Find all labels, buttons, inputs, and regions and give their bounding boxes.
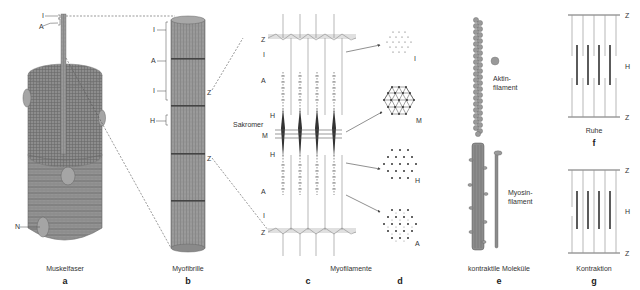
label-actin-filament: filament (493, 84, 518, 91)
label-Z-top: Z (261, 36, 266, 43)
label-A: A (39, 23, 44, 30)
label-Z-top: Z (207, 89, 212, 96)
zoom-connector (212, 38, 243, 90)
label-I-bottom: I (263, 212, 265, 219)
myosin-molecule (495, 154, 498, 248)
label-I: I (42, 12, 44, 19)
label-A: A (415, 240, 420, 247)
panel-letter-c: c (305, 276, 310, 286)
actin-monomer-icon (491, 57, 499, 65)
myofibril-rod (61, 14, 66, 154)
label-I: I (414, 55, 416, 62)
myosin-head-icon (494, 151, 502, 155)
panel-a-muscle-fiber: I A N Muskelfaser a (15, 12, 106, 286)
label-Z-top: Z (625, 12, 630, 19)
nucleus-icon (23, 89, 31, 107)
caption-kontraktile-molekuele: kontraktile Moleküle (468, 265, 530, 272)
panel-letter-e: e (496, 276, 501, 286)
panel-d-cross-sections: I M H (383, 31, 422, 286)
panel-letter-b: b (185, 276, 191, 286)
panel-letter-g: g (591, 276, 597, 286)
label-H-top: H (270, 112, 275, 119)
label-myosin-filament: filament (508, 198, 533, 205)
actin-filament (473, 17, 482, 136)
label-A-bottom: A (261, 188, 266, 195)
panel-g-contracted: Z H Z Kontraktion g (568, 167, 630, 286)
cross-section-A (383, 209, 417, 242)
label-I-bottom: I (153, 87, 155, 94)
label-H: H (625, 208, 630, 215)
caption-ruhe: Ruhe (586, 127, 603, 134)
caption-myofibrille: Myofibrille (172, 265, 204, 273)
myosin-thick-filaments (281, 72, 336, 195)
nucleus-icon (61, 167, 75, 185)
zoom-connector (212, 158, 268, 230)
myofibril-cylinder (171, 20, 205, 248)
label-actin: Aktin- (493, 75, 512, 82)
label-N: N (15, 223, 20, 230)
panel-e-contractile-molecules: Aktin- filament Myosin- filament kontrak… (468, 17, 533, 286)
panel-letter-a: a (62, 276, 68, 286)
panel-letter-d: d (397, 276, 403, 286)
label-I-top: I (153, 26, 155, 33)
cross-section-H (383, 149, 417, 179)
label-Z-bottom: Z (625, 250, 630, 257)
muscle-structure-diagram: I A N Muskelfaser a I A I H Z Z Myofibri… (0, 0, 640, 290)
label-H: H (150, 117, 155, 124)
label-Z-bottom: Z (625, 114, 630, 121)
label-H-bottom: H (270, 151, 275, 158)
label-M: M (416, 117, 422, 124)
caption-myofilamente: Myofilamente (330, 265, 372, 273)
label-Z-bottom: Z (207, 155, 212, 162)
label-sarcomere: Sakromer (233, 121, 264, 128)
label-H: H (625, 63, 630, 70)
cross-section-arrows (346, 45, 382, 212)
panel-f-relaxed: Z H Z Ruhe f (568, 12, 630, 148)
myosin-filament-bundle (468, 143, 488, 250)
m-line (275, 130, 342, 138)
panel-letter-f: f (593, 138, 597, 148)
label-I-top: I (263, 51, 265, 58)
caption-muskelfaser: Muskelfaser (46, 265, 84, 272)
label-Z-bottom: Z (261, 229, 266, 236)
label-myosin: Myosin- (508, 189, 533, 197)
panel-c-sarcomere: Z I A H Sakromer M H A I Z c (233, 14, 356, 286)
label-Z-top: Z (625, 167, 630, 174)
label-H: H (415, 177, 420, 184)
cross-section-I (386, 31, 411, 52)
caption-kontraktion: Kontraktion (576, 265, 612, 272)
label-A-top: A (261, 77, 266, 84)
label-M: M (262, 132, 268, 139)
panel-b-myofibril: I A I H Z Z Myofibrille b (150, 16, 212, 286)
label-A: A (151, 57, 156, 64)
